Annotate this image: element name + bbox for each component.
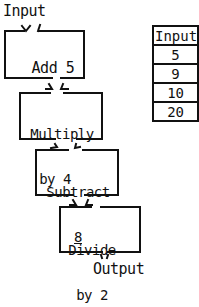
step-label-line1: Add 5 [32, 59, 75, 77]
input-label: Input [3, 4, 46, 19]
step-add-5: Add 5 [6, 46, 84, 76]
table-row: 10 [153, 83, 198, 102]
table-header-input: Input [153, 26, 198, 45]
input-table: Input 5 9 10 20 [152, 25, 199, 122]
step-label-line1: Multiply [21, 127, 103, 142]
step-label-line1: Divide [61, 243, 123, 258]
table-row: 20 [153, 102, 198, 121]
step-label-line1: Subtract [37, 185, 119, 200]
output-label: Output [93, 262, 144, 277]
step-label-line2: by 2 [61, 288, 123, 303]
table-row: 5 [153, 45, 198, 64]
table-row: 9 [153, 64, 198, 83]
